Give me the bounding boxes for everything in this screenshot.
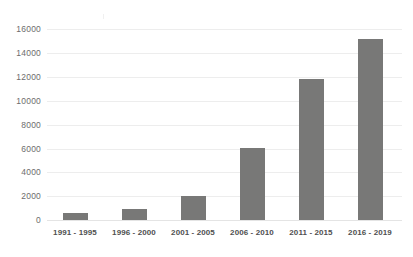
y-tick-label: 8000 (21, 120, 41, 130)
x-tick-label: 2001 - 2005 (171, 228, 215, 237)
y-tick-label: 6000 (21, 144, 41, 154)
x-axis: 1991 - 1995 1996 - 2000 2001 - 2005 2006… (47, 228, 402, 248)
y-tick-label: 10000 (16, 96, 41, 106)
x-tick-label: 2011 - 2015 (289, 228, 332, 237)
y-tick-label: 2000 (21, 191, 41, 201)
axis-baseline (47, 220, 402, 221)
y-tick-label: 12000 (16, 72, 41, 82)
bar-1991-1995[interactable] (63, 213, 88, 220)
y-tick-label: 16000 (16, 24, 41, 34)
y-axis: 0 2000 4000 6000 8000 10000 12000 14000 … (0, 0, 41, 257)
x-tick-label: 2016 - 2019 (348, 228, 392, 237)
bar-1996-2000[interactable] (122, 209, 147, 220)
stray-artifact-mark (103, 14, 104, 19)
y-tick-label: 4000 (21, 167, 41, 177)
x-tick-label: 2006 - 2010 (230, 228, 274, 237)
bar-2011-2015[interactable] (299, 79, 324, 220)
bar-2016-2019[interactable] (358, 39, 383, 220)
y-tick-label: 14000 (16, 48, 41, 58)
y-tick-label: 0 (36, 215, 41, 225)
bar-chart-figure: 0 2000 4000 6000 8000 10000 12000 14000 … (0, 0, 413, 257)
bar-2006-2010[interactable] (240, 148, 265, 220)
x-tick-label: 1996 - 2000 (112, 228, 156, 237)
x-tick-label: 1991 - 1995 (53, 228, 97, 237)
bars-layer (47, 29, 402, 220)
bar-2001-2005[interactable] (181, 196, 206, 220)
